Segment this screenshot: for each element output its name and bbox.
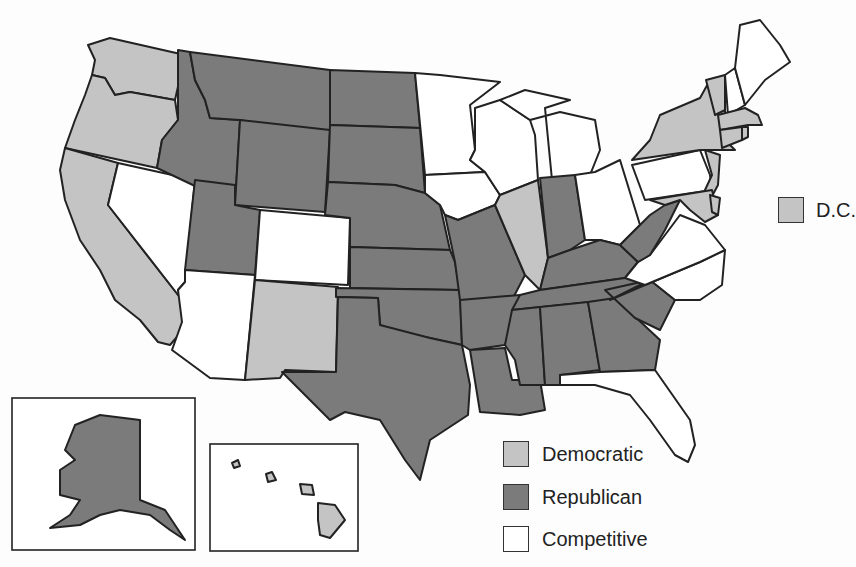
legend-democratic: Democratic [503,441,643,467]
legend-republican-label: Republican [542,486,642,509]
state-AZ [172,270,255,380]
state-DE [710,195,720,215]
hi-island-maui [300,484,314,495]
legend-dc: D.C. [778,197,856,223]
republican-swatch [503,484,529,510]
state-WY [235,120,330,212]
state-CT [720,127,742,148]
legend-republican: Republican [503,484,642,510]
dc-label: D.C. [816,199,856,222]
legend-democratic-label: Democratic [542,443,643,466]
state-ME [735,20,790,105]
state-NM [245,280,338,380]
democratic-swatch [503,441,529,467]
state-OH [575,160,640,245]
hawaii-inset-box [210,444,358,551]
competitive-swatch [503,526,529,552]
state-RI [742,127,748,140]
state-KS [350,247,460,290]
state-ND [330,70,420,128]
state-CO [255,210,350,285]
dc-swatch [778,197,804,223]
legend-competitive: Competitive [503,526,648,552]
legend-competitive-label: Competitive [542,528,648,551]
